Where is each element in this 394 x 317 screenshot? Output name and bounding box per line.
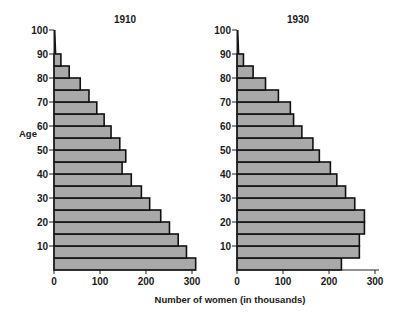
bar	[237, 234, 359, 246]
x-tick-label: 200	[321, 276, 338, 287]
bar	[54, 150, 126, 162]
bar	[237, 66, 253, 78]
bar	[54, 138, 120, 150]
x-tick-label: 100	[92, 276, 109, 287]
chart-title-1910: 1910	[114, 14, 137, 25]
x-tick-label: 0	[51, 276, 57, 287]
chart-title-1930: 1930	[287, 14, 310, 25]
chart-1930: 1930 102030405060708090100 0100200300	[214, 14, 383, 287]
x-axis-1910: 0100200300	[51, 270, 201, 287]
y-axis-1910: 102030405060708090100	[31, 25, 54, 271]
x-tick-label: 0	[234, 276, 240, 287]
y-tick-label: 100	[31, 25, 48, 36]
x-tick-label: 300	[184, 276, 201, 287]
bar	[237, 174, 337, 186]
y-tick-label: 40	[220, 169, 232, 180]
y-tick-label: 90	[37, 49, 49, 60]
y-axis-title: Age	[19, 128, 37, 139]
x-tick-label: 100	[275, 276, 292, 287]
bar	[237, 198, 355, 210]
y-tick-label: 60	[220, 121, 232, 132]
bar	[237, 186, 346, 198]
y-tick-label: 80	[220, 73, 232, 84]
y-tick-label: 30	[220, 193, 232, 204]
bar	[54, 246, 186, 258]
bar	[54, 102, 97, 114]
bar	[237, 114, 294, 126]
y-tick-label: 80	[37, 73, 49, 84]
y-tick-label: 60	[37, 121, 49, 132]
bar	[237, 162, 330, 174]
bars-1910	[54, 30, 196, 270]
bar	[54, 78, 80, 90]
y-tick-label: 70	[37, 97, 49, 108]
bar	[54, 126, 111, 138]
y-tick-label: 10	[37, 241, 49, 252]
x-tick-label: 300	[367, 276, 384, 287]
y-tick-label: 20	[37, 217, 49, 228]
bar	[237, 102, 290, 114]
y-axis-1930: 102030405060708090100	[214, 25, 237, 271]
bar	[237, 78, 266, 90]
bar	[54, 90, 89, 102]
bar	[237, 138, 313, 150]
bar	[54, 162, 122, 174]
bar	[54, 174, 131, 186]
bar	[237, 54, 243, 66]
y-tick-label: 50	[37, 145, 49, 156]
bar	[237, 126, 302, 138]
bars-1930	[237, 30, 364, 270]
bar	[54, 66, 69, 78]
bar	[237, 150, 319, 162]
bar	[237, 258, 341, 270]
bar	[237, 246, 359, 258]
population-pyramid-chart: 1910 102030405060708090100 0100200300 19…	[0, 0, 394, 317]
x-axis-title: Number of women (in thousands)	[155, 294, 306, 305]
chart-1910: 1910 102030405060708090100 0100200300	[31, 14, 200, 287]
x-axis-1930: 0100200300	[234, 270, 384, 287]
bar	[54, 258, 196, 270]
bar	[54, 234, 178, 246]
y-tick-label: 30	[37, 193, 49, 204]
bar	[54, 198, 150, 210]
y-tick-label: 100	[214, 25, 231, 36]
bar	[54, 54, 61, 66]
y-tick-label: 50	[220, 145, 232, 156]
y-tick-label: 10	[220, 241, 232, 252]
x-tick-label: 200	[138, 276, 155, 287]
bar	[54, 186, 141, 198]
y-tick-label: 90	[220, 49, 232, 60]
bar	[54, 222, 169, 234]
y-tick-label: 20	[220, 217, 232, 228]
bar	[237, 210, 364, 222]
y-tick-label: 70	[220, 97, 232, 108]
bar	[237, 222, 364, 234]
bar	[54, 210, 161, 222]
bar	[237, 90, 278, 102]
bar	[54, 114, 104, 126]
y-tick-label: 40	[37, 169, 49, 180]
